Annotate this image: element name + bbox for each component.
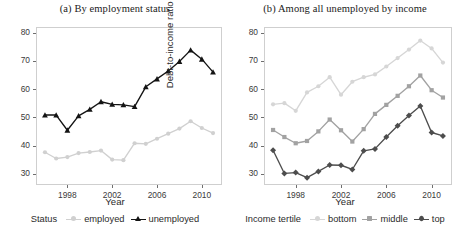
x-axis-tick-mark	[67, 185, 68, 188]
data-point	[338, 162, 344, 168]
middle-marker-icon	[362, 215, 377, 224]
data-point	[76, 113, 82, 118]
data-point	[384, 103, 388, 107]
y-axis-tick-mark	[33, 61, 36, 62]
data-point	[440, 133, 446, 139]
panel-a-plot-area	[36, 27, 222, 185]
data-point	[384, 64, 388, 68]
panel-b-legend-title: Income tertile	[245, 214, 301, 224]
panel-a-legend: Status employed unemployed	[0, 214, 230, 224]
legend-item-bottom[interactable]: bottom	[310, 214, 356, 224]
data-point	[362, 127, 366, 131]
legend-item-middle[interactable]: middle	[362, 214, 407, 224]
data-point	[155, 137, 159, 141]
y-axis-tick-label: 70	[21, 55, 30, 65]
x-axis-tick-mark	[386, 185, 387, 188]
data-point	[282, 135, 286, 139]
x-axis-tick-label: 2010	[187, 190, 217, 200]
panel-b-series-canvas	[264, 27, 452, 185]
y-axis-tick-mark	[33, 117, 36, 118]
data-point	[305, 139, 309, 143]
data-point	[361, 148, 367, 154]
x-axis-tick-label: 2002	[326, 190, 356, 200]
data-point	[189, 119, 193, 123]
data-point	[281, 170, 287, 176]
legend-label-top: top	[432, 214, 445, 224]
data-point	[441, 95, 445, 99]
data-point	[305, 90, 309, 94]
y-axis-tick-mark	[33, 146, 36, 147]
series-line-unemployed	[45, 50, 213, 130]
panel-b-legend: Income tertile bottom middle	[230, 214, 460, 224]
data-point	[316, 84, 320, 88]
data-point	[294, 141, 298, 145]
data-point	[418, 73, 422, 77]
x-axis-tick-mark	[202, 185, 203, 188]
x-axis-tick-label: 1998	[52, 190, 82, 200]
y-axis-tick-mark	[261, 146, 264, 147]
x-axis-tick-label: 2006	[371, 190, 401, 200]
data-point	[99, 148, 103, 152]
y-axis-tick-mark	[33, 174, 36, 175]
data-point	[144, 142, 148, 146]
data-point	[349, 166, 355, 172]
x-axis-tick-mark	[112, 185, 113, 188]
x-axis-tick-label: 1998	[281, 190, 311, 200]
y-axis-tick-mark	[33, 33, 36, 34]
y-axis-tick-label: 50	[21, 112, 30, 122]
data-point	[304, 175, 310, 181]
y-axis-tick-label: 60	[21, 84, 30, 94]
y-axis-tick-mark	[261, 61, 264, 62]
data-point	[88, 150, 92, 154]
y-axis-tick-label: 50	[249, 112, 258, 122]
data-point	[133, 141, 137, 145]
panel-a: (a) By employment status Debt-to-income …	[0, 0, 230, 240]
y-axis-tick-mark	[261, 89, 264, 90]
x-axis-tick-mark	[296, 185, 297, 188]
data-point	[271, 128, 275, 132]
legend-item-employed[interactable]: employed	[66, 214, 124, 224]
data-point	[76, 151, 80, 155]
data-point	[350, 80, 354, 84]
unemployed-marker-icon	[131, 215, 146, 224]
y-axis-tick-label: 30	[21, 168, 30, 178]
bottom-marker-icon	[310, 215, 325, 224]
panel-a-legend-title: Status	[31, 214, 57, 224]
data-point	[441, 60, 445, 64]
panel-a-title: (a) By employment status	[0, 3, 230, 14]
data-point	[200, 126, 204, 130]
y-axis-tick-mark	[261, 174, 264, 175]
legend-item-unemployed[interactable]: unemployed	[131, 214, 200, 224]
figure-container: (a) By employment status Debt-to-income …	[0, 0, 460, 240]
series-line-middle	[273, 76, 443, 144]
data-point	[177, 126, 181, 130]
legend-label-unemployed: unemployed	[149, 214, 200, 224]
y-axis-tick-label: 60	[249, 84, 258, 94]
y-axis-tick-mark	[33, 89, 36, 90]
data-point	[211, 131, 215, 135]
data-point	[271, 102, 275, 106]
x-axis-tick-label: 2006	[142, 190, 172, 200]
legend-item-top[interactable]: top	[414, 214, 445, 224]
employed-marker-icon	[66, 215, 81, 224]
data-point	[396, 56, 400, 60]
y-axis-tick-label: 80	[21, 27, 30, 37]
data-point	[430, 88, 434, 92]
y-axis-tick-label: 40	[21, 140, 30, 150]
data-point	[293, 170, 299, 176]
data-point	[407, 84, 411, 88]
x-axis-tick-mark	[157, 185, 158, 188]
data-point	[328, 75, 332, 79]
data-point	[327, 162, 333, 168]
legend-label-employed: employed	[84, 214, 124, 224]
x-axis-tick-label: 2010	[417, 190, 447, 200]
x-axis-tick-label: 2002	[97, 190, 127, 200]
data-point	[339, 93, 343, 97]
panel-b-plot-area	[264, 27, 452, 185]
data-point	[407, 47, 411, 51]
data-point	[166, 132, 170, 136]
data-point	[373, 112, 377, 116]
data-point	[328, 117, 332, 121]
legend-label-middle: middle	[380, 214, 407, 224]
y-axis-tick-label: 30	[249, 168, 258, 178]
